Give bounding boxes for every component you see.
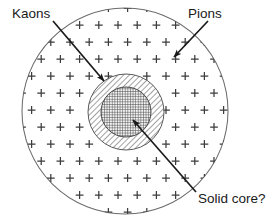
kaons-label: Kaons <box>12 6 51 21</box>
pions-label: Pions <box>188 6 222 21</box>
solid-core-label: Solid core? <box>198 191 266 206</box>
diagram-canvas: Kaons Pions Solid core? <box>0 0 272 215</box>
solid-core-region <box>101 87 151 137</box>
physics-diagram: Kaons Pions Solid core? <box>0 0 272 215</box>
